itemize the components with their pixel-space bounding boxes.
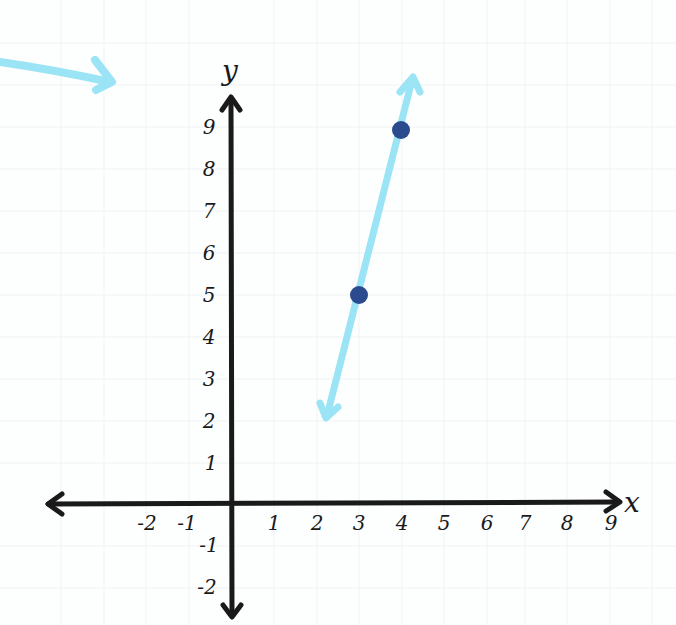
- y-axis: [222, 97, 241, 617]
- x-axis: [48, 492, 620, 514]
- svg-text:8: 8: [203, 157, 216, 181]
- svg-text:4: 4: [395, 511, 409, 535]
- svg-text:1: 1: [205, 451, 218, 475]
- svg-text:3: 3: [203, 367, 216, 391]
- svg-text:2: 2: [310, 511, 324, 535]
- coordinate-plane: y x -2 -1 1 2 3 4 5 6 7 8 9 9 8 7 6 5 4 …: [0, 0, 676, 625]
- svg-text:7: 7: [203, 199, 216, 223]
- svg-text:3: 3: [353, 511, 366, 535]
- graph-svg: y x -2 -1 1 2 3 4 5 6 7 8 9 9 8 7 6 5 4 …: [0, 0, 676, 625]
- svg-text:9: 9: [605, 511, 618, 535]
- x-axis-label: x: [624, 486, 640, 519]
- svg-text:2: 2: [202, 409, 216, 433]
- svg-text:9: 9: [203, 115, 216, 139]
- svg-text:-1: -1: [177, 511, 196, 535]
- data-point-3-5[interactable]: [350, 286, 368, 304]
- y-tick-labels: 9 8 7 6 5 4 3 2 1 -1 -2: [197, 115, 218, 599]
- svg-text:-2: -2: [137, 511, 156, 535]
- svg-text:6: 6: [481, 511, 494, 535]
- svg-text:-2: -2: [197, 575, 216, 599]
- x-tick-labels: -2 -1 1 2 3 4 5 6 7 8 9: [137, 511, 617, 535]
- grid: [0, 0, 676, 625]
- svg-text:4: 4: [202, 325, 216, 349]
- svg-text:6: 6: [203, 241, 216, 265]
- svg-text:5: 5: [203, 283, 216, 307]
- y-axis-label: y: [220, 54, 239, 87]
- svg-text:-1: -1: [199, 533, 218, 557]
- svg-text:8: 8: [561, 511, 574, 535]
- svg-text:1: 1: [268, 511, 281, 535]
- data-point-4-9[interactable]: [392, 121, 410, 139]
- svg-text:7: 7: [519, 511, 532, 535]
- svg-text:5: 5: [438, 511, 451, 535]
